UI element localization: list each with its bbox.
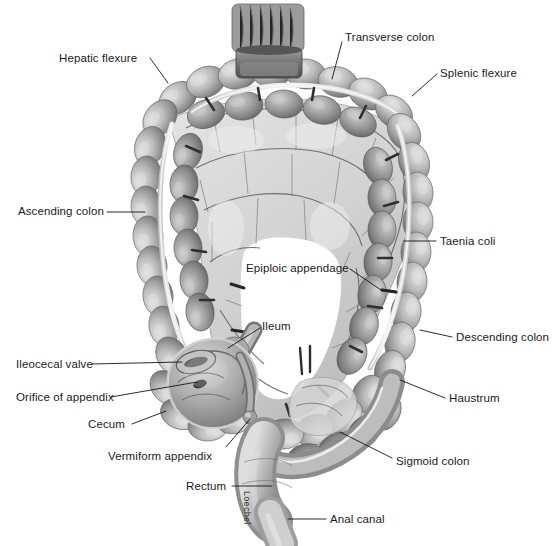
label-vermiform-appendix: Vermiform appendix	[108, 450, 212, 462]
label-sigmoid-colon: Sigmoid colon	[396, 455, 470, 467]
label-descending-colon: Descending colon	[456, 331, 549, 343]
label-rectum: Rectum	[186, 480, 226, 492]
label-epiploic-appendage: Epiploic appendage	[246, 262, 349, 274]
anatomy-plate: Loechel Hepatic flexureTransverse colonS…	[0, 0, 552, 546]
label-anal-canal: Anal canal	[330, 513, 385, 525]
label-splenic-flexure: Splenic flexure	[440, 67, 517, 79]
label-taenia-coli: Taenia coli	[440, 235, 495, 247]
label-ascending-colon: Ascending colon	[18, 205, 104, 217]
label-ileum: Ileum	[262, 320, 291, 332]
label-haustrum: Haustrum	[449, 392, 500, 404]
label-orifice-of-appendix: Orifice of appendix	[16, 391, 114, 403]
label-layer: Loechel Hepatic flexureTransverse colonS…	[0, 0, 552, 546]
label-cecum: Cecum	[88, 418, 125, 430]
label-ileocecal-valve: Ileocecal valve	[16, 358, 93, 370]
artist-signature: Loechel	[242, 491, 252, 525]
label-transverse-colon: Transverse colon	[345, 31, 434, 43]
label-hepatic-flexure: Hepatic flexure	[59, 52, 137, 64]
